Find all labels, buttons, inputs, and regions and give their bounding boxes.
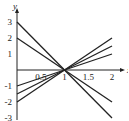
x-tick-label: 1.5 [83,72,95,82]
x-axis-label: x [126,65,128,75]
y-tick-label: 3 [8,17,13,27]
y-tick-label: 2 [8,33,13,43]
x-tick-label: 2 [110,72,115,82]
x-axis-arrow-icon [120,68,125,72]
y-tick-label: -1 [5,81,13,91]
x-tick-label: 1 [62,72,67,82]
y-axis-label: y [12,1,17,11]
y-tick-label: -2 [5,97,13,107]
line-chart: 0.511.52321-1-2-3xy [0,0,128,121]
tick-labels: 0.511.52321-1-2-3xy [5,1,129,121]
y-tick-label: -3 [5,113,13,121]
y-tick-label: 1 [8,49,13,59]
x-tick-label: 0.5 [35,72,47,82]
axes [15,8,125,120]
